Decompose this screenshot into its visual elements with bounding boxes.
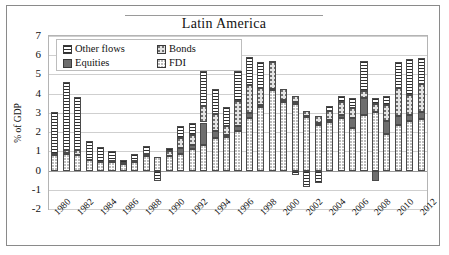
bar-segment-bonds <box>131 161 138 163</box>
bar-segment-other-flows <box>143 146 150 155</box>
bar-segment-bonds <box>234 101 241 126</box>
bar-segment-bonds <box>246 85 253 113</box>
bar-segment-equities <box>315 123 322 125</box>
bar-segment-bonds <box>315 116 322 124</box>
bar-segment-bonds <box>280 89 287 101</box>
bar-group <box>269 36 276 209</box>
bar-segment-fdi <box>395 125 402 170</box>
bar-segment-other-flows <box>303 171 310 187</box>
bar-segment-equities <box>223 135 230 137</box>
bar-segment-other-flows <box>269 61 276 63</box>
bar-segment-bonds <box>372 104 379 112</box>
bar-segment-fdi <box>280 102 287 170</box>
bar-segment-bonds <box>74 150 81 155</box>
bar-segment-bonds <box>269 62 276 89</box>
bar-group <box>418 36 425 209</box>
y-axis-tick: 3 <box>36 106 42 118</box>
bar-segment-bonds <box>257 88 264 105</box>
bar-segment-other-flows <box>326 106 333 111</box>
bar-segment-bonds <box>189 135 196 145</box>
bar-segment-bonds <box>200 106 207 122</box>
bar-segment-equities <box>338 115 345 118</box>
bar-group <box>395 36 402 209</box>
y-axis-tick: -2 <box>32 202 41 214</box>
bar-segment-fdi <box>303 117 310 171</box>
bar-segment-fdi <box>212 138 219 171</box>
bar-segment-bonds <box>292 96 299 103</box>
bar-segment-fdi <box>51 155 58 170</box>
bar-segment-other-flows <box>372 98 379 105</box>
bar-segment-other-flows <box>257 62 264 88</box>
bar-segment-fdi <box>383 134 390 171</box>
bar-segment-equities <box>360 98 367 114</box>
bar-group <box>349 36 356 209</box>
legend-swatch-bonds-icon <box>157 45 166 54</box>
bar-segment-other-flows <box>131 154 138 161</box>
chart-legend: Other flowsBondsEquitiesFDI <box>56 39 242 71</box>
legend-label: Other flows <box>75 43 125 54</box>
bar-segment-equities <box>303 116 310 118</box>
y-axis-tick: 0 <box>36 164 42 176</box>
bar-group <box>246 36 253 209</box>
bar-segment-other-flows <box>349 98 356 108</box>
bar-segment-bonds <box>360 91 367 99</box>
bar-segment-fdi <box>326 122 333 171</box>
bar-segment-other-flows <box>97 147 104 161</box>
legend-swatch-other-flows-icon <box>63 45 72 54</box>
legend-label: FDI <box>169 57 186 68</box>
bar-segment-bonds <box>63 150 70 153</box>
bar-segment-fdi <box>372 112 379 171</box>
bar-segment-equities <box>189 145 196 150</box>
bar-segment-equities <box>418 112 425 119</box>
bar-segment-bonds <box>326 111 333 120</box>
bar-segment-fdi <box>131 162 138 171</box>
bar-segment-other-flows <box>177 126 184 138</box>
bar-segment-fdi <box>86 160 93 171</box>
bar-segment-equities <box>200 123 207 145</box>
bar-segment-other-flows <box>418 58 425 84</box>
bar-segment-bonds <box>338 102 345 114</box>
bar-group <box>303 36 310 209</box>
bar-segment-fdi <box>269 90 276 171</box>
bar-segment-equities <box>246 113 253 118</box>
bar-segment-fdi <box>200 145 207 171</box>
bar-segment-fdi <box>315 125 322 170</box>
bar-segment-fdi <box>97 162 104 171</box>
x-axis-labels: 1980198219841986198819901992199419961998… <box>48 210 428 255</box>
bar-segment-fdi <box>143 156 150 170</box>
bar-segment-equities <box>372 171 379 182</box>
bar-group <box>383 36 390 209</box>
bar-segment-fdi <box>257 107 264 170</box>
chart-frame: Latin America % of GDP -2-101234567 1980… <box>6 5 440 246</box>
bar-segment-fdi <box>189 149 196 170</box>
bar-segment-other-flows <box>200 71 207 107</box>
bar-segment-fdi <box>349 128 356 170</box>
legend-label: Bonds <box>169 43 196 54</box>
bar-segment-equities <box>280 100 287 102</box>
bar-segment-bonds <box>383 105 390 120</box>
bar-segment-other-flows <box>154 171 161 182</box>
bar-segment-other-flows <box>315 171 322 183</box>
legend-label: Equities <box>75 57 109 68</box>
bar-segment-fdi <box>418 119 425 171</box>
bar-segment-equities <box>212 131 219 138</box>
bar-segment-other-flows <box>189 123 196 135</box>
bar-segment-other-flows <box>234 71 241 102</box>
bar-segment-bonds <box>223 126 230 135</box>
bar-segment-other-flows <box>406 59 413 95</box>
bar-segment-fdi <box>74 155 81 170</box>
bar-segment-fdi <box>292 104 299 170</box>
bar-segment-bonds <box>108 161 115 163</box>
y-axis-tick: 5 <box>36 67 42 79</box>
bar-segment-bonds <box>395 88 402 116</box>
legend-swatch-equities-icon <box>63 59 72 68</box>
bar-segment-other-flows <box>395 62 402 88</box>
bar-segment-equities <box>383 121 390 134</box>
bar-group <box>326 36 333 209</box>
bar-segment-equities <box>63 153 70 155</box>
bar-segment-equities <box>257 105 264 107</box>
bar-segment-equities <box>326 120 333 122</box>
bar-segment-other-flows <box>212 89 219 114</box>
bar-group <box>406 36 413 209</box>
bar-segment-equities <box>349 118 356 129</box>
